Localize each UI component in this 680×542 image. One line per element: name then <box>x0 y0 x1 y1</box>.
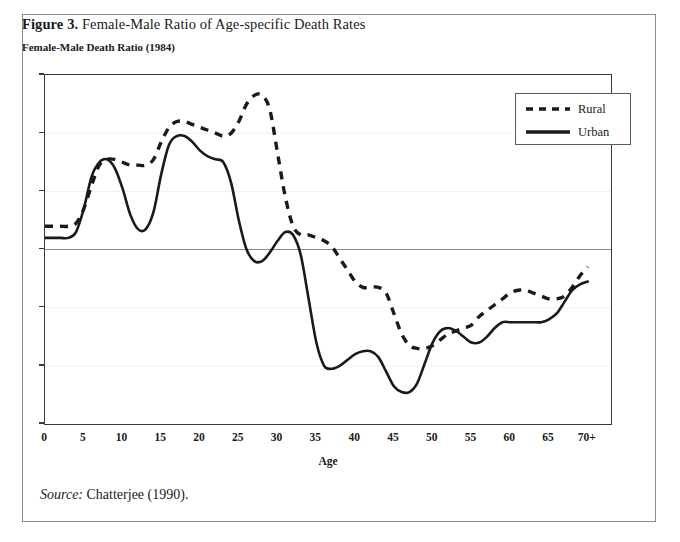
x-axis-tick-label: 15 <box>155 431 167 443</box>
x-axis-label: Age <box>318 455 337 467</box>
y-axis-tick-mark <box>39 132 44 133</box>
figure-number: Figure 3. <box>22 16 78 32</box>
x-axis-tick-label: 10 <box>116 431 128 443</box>
x-axis-tick-label: 50 <box>426 431 438 443</box>
source-note: Source: Chatterjee (1990). <box>40 487 188 503</box>
chart-axis-heading: Female-Male Death Ratio (1984) <box>22 41 175 53</box>
x-axis-tick-label: 30 <box>271 431 283 443</box>
legend-label-urban: Urban <box>578 125 609 140</box>
x-axis-tick-label: 35 <box>310 431 322 443</box>
x-axis-tick-label: 5 <box>80 431 86 443</box>
legend-item-urban: Urban <box>516 119 630 145</box>
y-axis-tick-mark <box>39 73 44 74</box>
y-axis-tick-mark <box>39 422 44 423</box>
x-axis-tick-label: 45 <box>387 431 399 443</box>
chart-legend: Rural Urban <box>515 93 631 145</box>
legend-swatch-rural <box>525 102 571 116</box>
source-value: Chatterjee (1990). <box>87 487 189 502</box>
legend-label-rural: Rural <box>578 102 606 117</box>
series-line-rural <box>45 94 588 349</box>
series-line-urban <box>45 135 588 393</box>
x-axis-tick-label: 60 <box>503 431 515 443</box>
y-axis-tick-mark <box>39 364 44 365</box>
x-axis-tick-label: 40 <box>348 431 360 443</box>
x-axis-tick-label: 55 <box>465 431 477 443</box>
y-axis-tick-mark <box>39 248 44 249</box>
y-axis-tick-mark <box>39 190 44 191</box>
x-axis-tick-label: 70+ <box>578 431 596 443</box>
page-title: Figure 3. Female-Male Ratio of Age-speci… <box>22 16 365 33</box>
source-label: Source: <box>40 487 83 502</box>
x-axis-tick-label: 20 <box>193 431 205 443</box>
x-axis-tick-label: 25 <box>232 431 244 443</box>
legend-swatch-urban <box>525 125 571 139</box>
figure-title-text: Female-Male Ratio of Age-specific Death … <box>82 16 366 32</box>
x-axis-tick-label: 0 <box>41 431 47 443</box>
x-axis-tick-label: 65 <box>542 431 554 443</box>
y-axis-tick-mark <box>39 306 44 307</box>
